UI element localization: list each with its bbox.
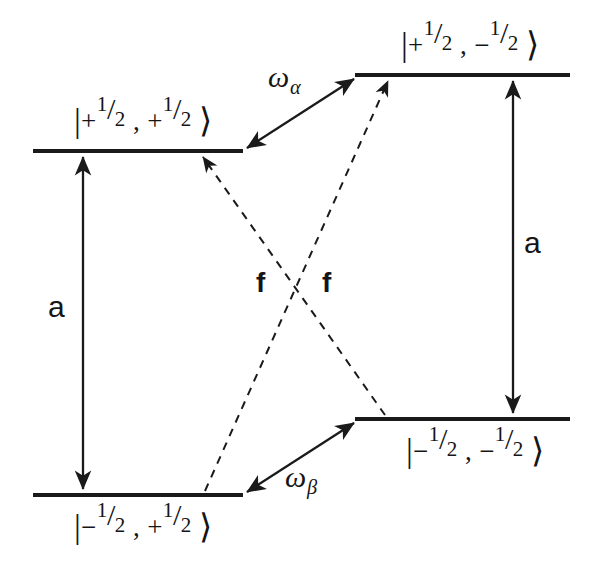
transition-label-omega-beta: ωβ: [285, 462, 316, 492]
arrow-flip-flop-left: [203, 157, 385, 415]
level-label-upper-right: |+1/2, −1/2⟩: [401, 26, 539, 60]
transition-label-f-left: f: [256, 269, 265, 297]
transition-label-a-left: a: [48, 292, 65, 322]
transition-label-f-right: f: [322, 269, 331, 297]
energy-level-diagram: |+1/2, −1/2⟩ |+1/2, +1/2⟩ |−1/2, −1/2⟩ |…: [0, 0, 594, 578]
level-label-lower-left: |−1/2, +1/2⟩: [74, 508, 212, 542]
level-label-upper-left: |+1/2, +1/2⟩: [74, 102, 212, 136]
level-label-lower-right: |−1/2, −1/2⟩: [406, 432, 544, 466]
transition-label-a-right: a: [524, 228, 541, 258]
transition-label-omega-alpha: ωα: [268, 62, 300, 92]
arrow-flip-flop-right: [205, 81, 388, 491]
